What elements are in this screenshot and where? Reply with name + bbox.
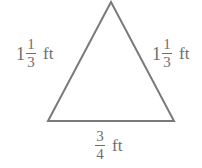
left-side-fraction: 1 3 — [26, 37, 36, 70]
right-side-whole: 1 — [152, 45, 161, 63]
base-label: 3 4 ft — [95, 129, 122, 162]
left-side-denominator: 3 — [27, 54, 35, 70]
left-side-whole: 1 — [16, 45, 25, 63]
base-fraction: 3 4 — [95, 129, 105, 162]
right-side-label: 1 1 3 ft — [152, 37, 189, 70]
right-side-denominator: 3 — [163, 54, 171, 70]
base-numerator: 3 — [95, 129, 105, 145]
left-side-numerator: 1 — [26, 37, 36, 53]
right-side-unit: ft — [179, 45, 189, 62]
left-side-label: 1 1 3 ft — [16, 37, 53, 70]
right-side-numerator: 1 — [162, 37, 172, 53]
left-side-unit: ft — [43, 45, 53, 62]
right-side-fraction: 1 3 — [162, 37, 172, 70]
base-unit: ft — [112, 137, 122, 154]
base-denominator: 4 — [96, 146, 104, 162]
